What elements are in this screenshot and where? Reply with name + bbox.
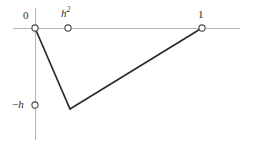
marker-h-squared bbox=[65, 25, 71, 31]
label-origin-text: 0 bbox=[23, 9, 29, 21]
marker-minus-h bbox=[32, 102, 38, 108]
plot-canvas bbox=[0, 0, 254, 146]
function-curve bbox=[35, 28, 202, 109]
figure-container: 0 h2 1 −h bbox=[0, 0, 254, 146]
marker-origin bbox=[32, 25, 38, 31]
label-h-squared-exponent: 2 bbox=[67, 5, 71, 14]
label-one: 1 bbox=[198, 9, 204, 20]
label-one-text: 1 bbox=[198, 8, 204, 20]
label-origin: 0 bbox=[23, 10, 29, 21]
marker-one bbox=[199, 25, 205, 31]
label-minus-h: −h bbox=[12, 99, 24, 110]
label-h-squared: h2 bbox=[61, 8, 70, 19]
label-minus-h-var: h bbox=[18, 98, 24, 110]
